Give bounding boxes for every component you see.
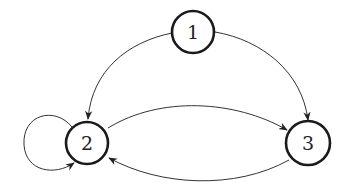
node-3-label: 3 xyxy=(302,132,314,154)
edge-3-to-2 xyxy=(109,158,289,181)
node-2: 2 xyxy=(66,122,108,164)
node-1: 1 xyxy=(172,11,214,53)
node-3: 3 xyxy=(286,121,330,165)
edge-2-to-3 xyxy=(108,106,287,130)
edge-1-to-3 xyxy=(215,32,308,120)
edge-1-to-2 xyxy=(88,33,172,119)
node-2-label: 2 xyxy=(81,132,93,154)
state-diagram: 1 2 3 xyxy=(0,0,342,189)
node-1-label: 1 xyxy=(187,21,199,43)
